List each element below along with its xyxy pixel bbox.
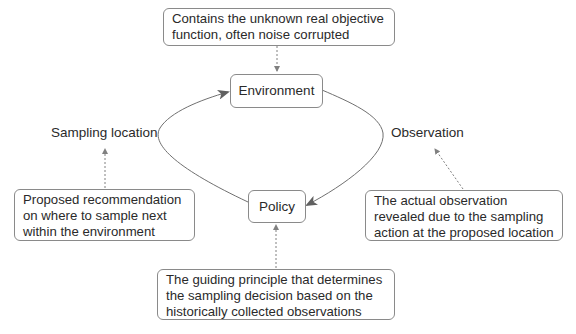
- sampling-note: Proposed recommendation on where to samp…: [14, 189, 195, 241]
- observation-label: Observation: [391, 125, 464, 141]
- environment-note: Contains the unknown real objective func…: [163, 8, 395, 46]
- environment-note-line-2: function, often noise corrupted: [172, 27, 386, 43]
- policy-node: Policy: [248, 190, 306, 223]
- observation-note: The actual observation revealed due to t…: [365, 190, 563, 241]
- policy-note-line-3: historically collected observations: [166, 304, 386, 320]
- environment-node: Environment: [230, 74, 323, 108]
- environment-node-label: Environment: [239, 83, 315, 99]
- observation-note-line-1: The actual observation: [374, 193, 554, 209]
- policy-note-line-2: the sampling decision based on the: [166, 288, 386, 304]
- policy-note-line-1: The guiding principle that determines: [166, 272, 386, 288]
- policy-note: The guiding principle that determines th…: [157, 269, 395, 320]
- sampling-location-label: Sampling location: [51, 125, 158, 141]
- sampling-note-line-2: on where to sample next: [23, 208, 186, 224]
- observation-note-line-3: action at the proposed location: [374, 225, 554, 241]
- sampling-note-line-3: within the environment: [23, 224, 186, 240]
- observation-note-connector: [435, 149, 463, 189]
- sampling-location-edge: [158, 92, 248, 202]
- sampling-note-line-1: Proposed recommendation: [23, 192, 186, 208]
- environment-note-line-1: Contains the unknown real objective: [172, 11, 386, 27]
- observation-note-line-2: revealed due to the sampling: [374, 209, 554, 225]
- policy-node-label: Policy: [259, 199, 295, 215]
